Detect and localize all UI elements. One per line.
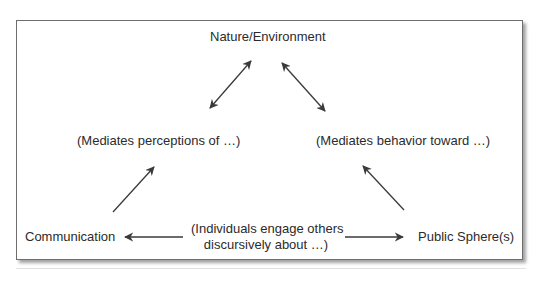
node-mediates-behavior: (Mediates behavior toward …)	[316, 133, 490, 149]
node-communication: Communication	[25, 229, 115, 245]
node-public-spheres: Public Sphere(s)	[418, 229, 514, 245]
node-individuals-engage-line2: discursively about …)	[191, 237, 341, 253]
node-nature-environment: Nature/Environment	[210, 29, 326, 45]
page-rule	[16, 268, 526, 269]
node-mediates-perceptions: (Mediates perceptions of …)	[77, 133, 240, 149]
node-individuals-engage-line1: (Individuals engage others	[191, 221, 341, 237]
node-individuals-engage: (Individuals engage others discursively …	[191, 221, 341, 253]
